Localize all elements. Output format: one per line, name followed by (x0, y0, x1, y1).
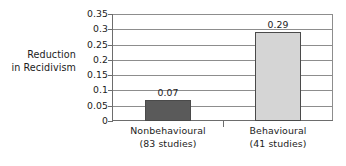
y-axis-tick-label: 0.15 (72, 70, 108, 80)
y-axis-tick (108, 75, 113, 76)
bar-value-label: 0.29 (248, 20, 308, 30)
bar-chart: Reduction in Recidivism 00.050.10.150.20… (0, 0, 346, 166)
x-axis-category-label: Nonbehavioural(83 studies) (113, 125, 223, 150)
y-axis-tick (108, 45, 113, 46)
y-axis-tick-label: 0.1 (72, 85, 108, 95)
category-name: Behavioural (223, 125, 333, 138)
y-axis-tick-label: 0.05 (72, 101, 108, 111)
y-axis-tick-label: 0 (72, 116, 108, 126)
y-axis-tick-label: 0.2 (72, 55, 108, 65)
y-axis-tick (108, 60, 113, 61)
y-axis-tick (108, 106, 113, 107)
category-study-count: (41 studies) (223, 138, 333, 151)
y-axis-tick-label: 0.35 (72, 9, 108, 19)
gridline (113, 14, 333, 15)
y-axis-tick (108, 121, 113, 122)
bar-value-label: 0.07 (138, 88, 198, 98)
y-axis-title-line-2: in Recidivism (2, 62, 76, 75)
category-name: Nonbehavioural (113, 125, 223, 138)
y-axis-tick (108, 29, 113, 30)
y-axis-title: Reduction in Recidivism (2, 49, 76, 74)
x-axis-category-label: Behavioural(41 studies) (223, 125, 333, 150)
x-axis-category-labels: Nonbehavioural(83 studies)Behavioural(41… (113, 125, 333, 159)
bar (255, 32, 301, 121)
y-axis-tick-label: 0.3 (72, 24, 108, 34)
y-axis-title-line-1: Reduction (2, 49, 76, 62)
y-axis-tick-label: 0.25 (72, 40, 108, 50)
y-axis-tick (108, 90, 113, 91)
y-axis-tick-labels: 00.050.10.150.20.250.30.35 (72, 14, 108, 121)
category-study-count: (83 studies) (113, 138, 223, 151)
y-axis-tick (108, 14, 113, 15)
bar (145, 100, 191, 121)
